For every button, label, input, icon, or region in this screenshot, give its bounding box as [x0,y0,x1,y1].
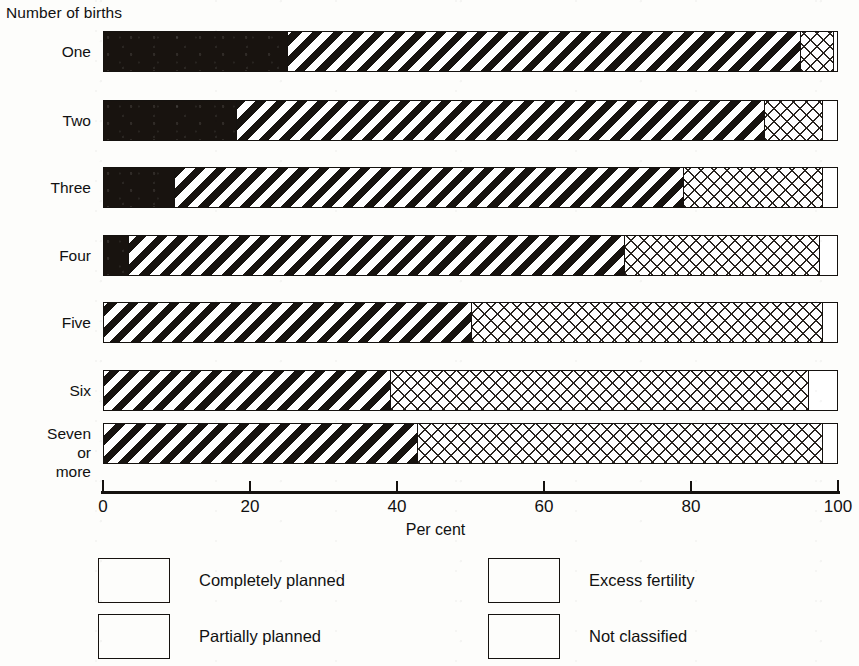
bar-segment-excess [417,424,822,463]
bar-row [103,302,838,343]
bar-segment-notclassified [822,168,837,207]
stacked-bar [103,302,838,343]
stacked-bar [103,31,838,72]
x-axis-tick [543,481,545,492]
stacked-bar [103,235,838,276]
legend-label: Not classified [589,627,687,646]
bar-segment-excess [800,32,833,71]
x-axis-tick-label: 60 [535,497,554,517]
bar-segment-notclassified [819,236,837,275]
bar-segment-notclassified [833,32,837,71]
category-label: Three [51,178,92,197]
x-axis-tick [249,481,251,492]
category-label: Seven or more [47,424,91,481]
x-axis-line [101,491,840,494]
stacked-bar [103,167,838,208]
stacked-bar [103,423,838,464]
bar-segment-complete [104,32,287,71]
bar-segment-partial [174,168,683,207]
legend-swatch-partial [98,614,170,659]
legend-swatch-complete [98,558,170,603]
bar-segment-partial [236,101,764,140]
bar-segment-excess [764,101,823,140]
axis-end-cap [102,480,105,492]
plot-area: OneTwoThreeFourFiveSixSeven or more [103,31,838,489]
category-label: Four [59,246,91,265]
stacked-bar [103,100,838,141]
bar-segment-partial [128,236,624,275]
bar-segment-partial [104,371,390,410]
bar-segment-notclassified [822,303,837,342]
x-axis-title: Per cent [0,521,859,539]
bar-row [103,370,838,411]
legend-item: Completely planned [98,558,345,603]
bar-segment-partial [104,303,471,342]
bar-row [103,235,838,276]
chart-legend: Completely plannedPartially plannedExces… [0,556,859,660]
bar-row [103,31,838,72]
legend-label: Partially planned [199,627,321,646]
bar-segment-complete [104,168,174,207]
bar-row [103,423,838,464]
stacked-bar-chart: Number of births OneTwoThreeFourFiveSixS… [0,0,859,666]
x-axis-tick-label: 20 [241,497,260,517]
x-axis-tick [396,481,398,492]
y-axis-title: Number of births [6,4,122,22]
axis-end-cap [837,480,840,492]
x-axis-tick-label: 0 [98,497,107,517]
category-label: Five [62,313,91,332]
bar-segment-excess [471,303,823,342]
legend-item: Not classified [488,614,687,659]
x-axis-title-text: Per cent [406,521,466,538]
x-axis-tick [690,481,692,492]
x-axis-tick-label: 100 [824,497,852,517]
category-label: Six [69,381,91,400]
bar-segment-notclassified [822,101,837,140]
bar-segment-excess [390,371,808,410]
bar-segment-complete [104,101,236,140]
bar-segment-notclassified [822,424,837,463]
x-axis-tick-label: 80 [682,497,701,517]
bar-segment-excess [683,168,822,207]
stacked-bar [103,370,838,411]
bar-segment-complete [104,236,128,275]
legend-swatch-excess [488,558,560,603]
bar-segment-excess [624,236,818,275]
category-label: One [62,42,91,61]
bar-segment-partial [104,424,417,463]
bar-row [103,100,838,141]
legend-item: Excess fertility [488,558,694,603]
legend-label: Excess fertility [589,571,694,590]
bar-segment-notclassified [808,371,837,410]
legend-item: Partially planned [98,614,321,659]
bar-segment-partial [287,32,800,71]
category-label: Two [63,111,91,130]
legend-swatch-notclassified [488,614,560,659]
bar-row [103,167,838,208]
x-axis-tick-label: 40 [388,497,407,517]
legend-label: Completely planned [199,571,345,590]
